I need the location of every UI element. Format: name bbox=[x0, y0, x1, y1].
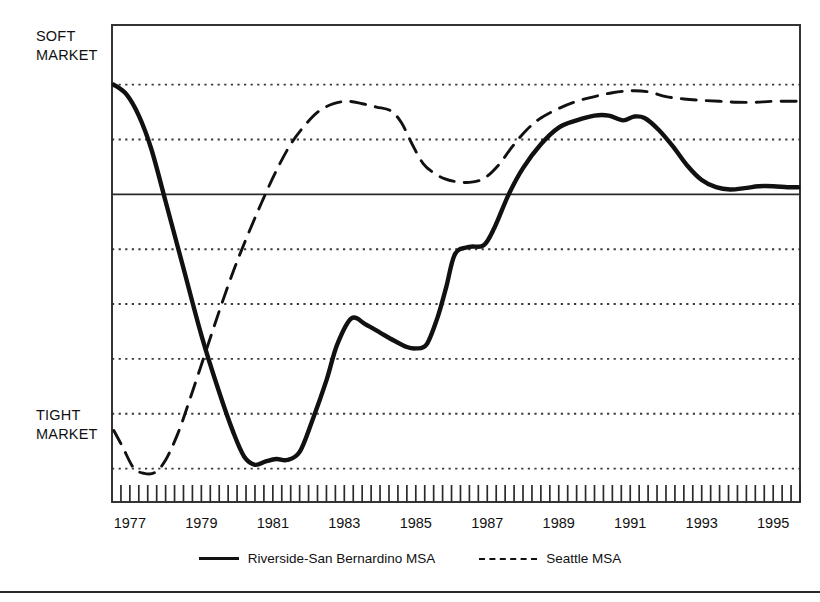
legend-swatch-solid-line-icon bbox=[199, 557, 239, 560]
legend-item-riverside: Riverside-San Bernardino MSA bbox=[199, 551, 436, 566]
chart-legend: Riverside-San Bernardino MSA Seattle MSA bbox=[0, 551, 820, 566]
legend-swatch-dashed-line-icon bbox=[479, 558, 537, 560]
legend-label-riverside: Riverside-San Bernardino MSA bbox=[248, 551, 436, 566]
gridlines bbox=[112, 85, 800, 469]
series-line-2 bbox=[114, 91, 798, 474]
data-series bbox=[114, 85, 798, 474]
plot-frame bbox=[112, 25, 800, 502]
legend-item-seattle: Seattle MSA bbox=[479, 551, 621, 566]
frame-rect bbox=[112, 25, 800, 502]
chart-container: SOFTMARKET TIGHTMARKET 19771979198119831… bbox=[0, 0, 820, 602]
series-line-1 bbox=[114, 85, 798, 465]
x-axis-ticks bbox=[121, 485, 800, 502]
legend-label-seattle: Seattle MSA bbox=[546, 551, 621, 566]
bottom-divider bbox=[0, 591, 820, 593]
plot-area bbox=[0, 0, 820, 602]
